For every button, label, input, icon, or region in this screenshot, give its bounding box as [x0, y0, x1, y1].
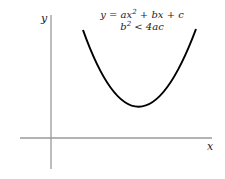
equation-line-2: b2 < 4ac — [98, 21, 186, 33]
equation-line-1: y = ax2 + bx + c — [98, 9, 186, 21]
parabola-curve — [83, 29, 196, 107]
equation: y = ax2 + bx + c b2 < 4ac — [98, 9, 186, 33]
y-axis-label: y — [41, 13, 47, 24]
x-axis-label: x — [207, 141, 213, 152]
